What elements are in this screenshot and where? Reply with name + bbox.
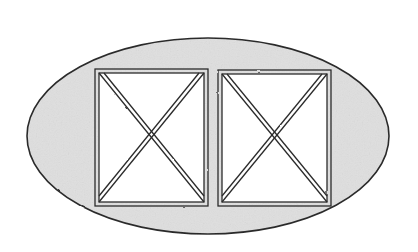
hand-drawn-figure [0,0,418,252]
figure-canvas: Hand-drawn geometric figure [0,0,418,252]
